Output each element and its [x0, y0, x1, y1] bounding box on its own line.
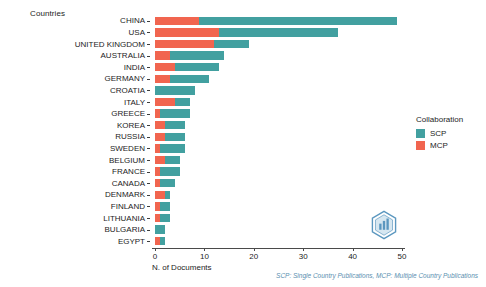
x-tick-mark — [155, 248, 156, 251]
bar-rows — [155, 15, 402, 247]
bar-segment-mcp — [155, 63, 175, 72]
bar-row — [155, 121, 402, 130]
bar-segment-scp — [160, 179, 175, 188]
y-tick-mark — [147, 230, 150, 231]
y-tick-mark — [147, 21, 150, 22]
bar-segment-scp — [160, 214, 170, 223]
legend-swatch-icon — [416, 129, 425, 138]
y-tick-label: ITALY — [124, 98, 145, 107]
y-tick-label: BULGARIA — [105, 225, 145, 234]
bar-segment-scp — [165, 133, 185, 142]
y-tick-label: AUSTRALIA — [101, 51, 145, 60]
bar-row — [155, 86, 402, 95]
plot-area — [155, 15, 402, 247]
y-tick-mark — [147, 206, 150, 207]
y-tick-label: UNITED KINGDOM — [75, 40, 145, 49]
y-tick-label: USA — [129, 28, 145, 37]
y-tick-label: FRANCE — [112, 167, 145, 176]
bar-segment-scp — [165, 121, 185, 130]
bar-row — [155, 98, 402, 107]
y-tick-mark — [147, 195, 150, 196]
bar-segment-mcp — [155, 75, 170, 84]
y-tick-label: LITHUANIA — [103, 214, 145, 223]
y-tick-mark — [147, 114, 150, 115]
bar-segment-scp — [160, 144, 185, 153]
bar-row — [155, 63, 402, 72]
legend-swatch-icon — [416, 141, 425, 150]
bar-row — [155, 179, 402, 188]
chart-caption: SCP: Single Country Publications, MCP: M… — [276, 272, 478, 279]
bar-segment-mcp — [155, 17, 199, 26]
y-tick-label: INDIA — [124, 63, 145, 72]
bar-row — [155, 144, 402, 153]
y-tick-mark — [147, 90, 150, 91]
y-tick-mark — [147, 44, 150, 45]
y-tick-label: RUSSIA — [115, 132, 145, 141]
y-tick-label: SWEDEN — [110, 144, 145, 153]
bar-segment-scp — [199, 17, 397, 26]
legend-title: Collaboration — [416, 115, 463, 124]
x-tick-mark — [254, 248, 255, 251]
x-tick-mark — [353, 248, 354, 251]
bar-row — [155, 156, 402, 165]
bar-segment-scp — [170, 75, 210, 84]
y-tick-label: GERMANY — [105, 74, 145, 83]
bibliometrix-logo-icon — [370, 210, 398, 240]
x-tick-label: 20 — [249, 252, 258, 261]
legend-label: SCP — [430, 129, 446, 138]
x-tick-label: 10 — [200, 252, 209, 261]
bar-segment-scp — [160, 167, 180, 176]
bar-segment-scp — [170, 51, 224, 60]
y-tick-mark — [147, 125, 150, 126]
y-tick-mark — [147, 148, 150, 149]
y-tick-label: KOREA — [117, 121, 145, 130]
legend: Collaboration SCPMCP — [416, 115, 463, 153]
bar-segment-scp — [175, 63, 219, 72]
bar-row — [155, 225, 402, 234]
y-tick-mark — [147, 67, 150, 68]
y-tick-label: DENMARK — [105, 190, 145, 199]
bar-row — [155, 167, 402, 176]
country-collaboration-chart: Countries CHINAUSAUNITED KINGDOMAUSTRALI… — [0, 0, 486, 287]
bar-row — [155, 51, 402, 60]
y-tick-mark — [147, 32, 150, 33]
y-tick-mark — [147, 218, 150, 219]
x-tick-label: 0 — [153, 252, 157, 261]
bar-segment-scp — [160, 237, 165, 246]
legend-items: SCPMCP — [416, 129, 463, 150]
x-tick-mark — [303, 248, 304, 251]
legend-item-scp[interactable]: SCP — [416, 129, 463, 138]
bar-row — [155, 133, 402, 142]
y-tick-label: FINLAND — [111, 202, 145, 211]
y-tick-label: CROATIA — [110, 86, 145, 95]
y-tick-label: GREECE — [111, 109, 145, 118]
y-tick-mark — [147, 79, 150, 80]
bar-row — [155, 28, 402, 37]
y-tick-label: BELGIUM — [109, 156, 145, 165]
y-tick-label: EGYPT — [118, 237, 145, 246]
y-axis-tick-labels: CHINAUSAUNITED KINGDOMAUSTRALIAINDIAGERM… — [0, 15, 150, 247]
legend-label: MCP — [430, 141, 448, 150]
bar-segment-scp — [165, 191, 170, 200]
bar-segment-scp — [155, 225, 165, 234]
bar-segment-mcp — [155, 121, 165, 130]
bar-row — [155, 191, 402, 200]
x-tick-label: 40 — [348, 252, 357, 261]
x-axis-line — [152, 248, 405, 249]
y-tick-mark — [147, 137, 150, 138]
y-tick-label: CANADA — [112, 179, 145, 188]
y-tick-mark — [147, 172, 150, 173]
bar-segment-scp — [155, 86, 195, 95]
bar-row — [155, 237, 402, 246]
bar-segment-scp — [175, 98, 190, 107]
bar-segment-mcp — [155, 156, 165, 165]
bar-segment-scp — [165, 156, 180, 165]
legend-item-mcp[interactable]: MCP — [416, 141, 463, 150]
x-tick-mark — [402, 248, 403, 251]
bar-row — [155, 109, 402, 118]
bar-row — [155, 40, 402, 49]
bar-segment-scp — [160, 202, 170, 211]
bar-row — [155, 17, 402, 26]
x-tick-label: 30 — [299, 252, 308, 261]
y-tick-mark — [147, 160, 150, 161]
